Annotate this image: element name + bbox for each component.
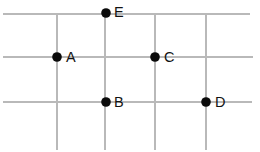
point-a-label: A	[66, 49, 76, 65]
diagram-canvas: EACBD	[0, 0, 260, 152]
vertical-grid-lines	[57, 14, 206, 150]
point-a-dot	[52, 52, 62, 62]
point-b-label: B	[114, 94, 124, 110]
point-c-label: C	[164, 49, 174, 65]
point-d-label: D	[215, 94, 225, 110]
point-c-dot	[150, 52, 160, 62]
point-e-dot	[101, 8, 111, 18]
point-d-dot	[201, 97, 211, 107]
point-e-label: E	[114, 4, 124, 20]
point-grid-figure: EACBD	[0, 0, 260, 152]
horizontal-grid-lines	[3, 14, 253, 102]
point-b-dot	[101, 97, 111, 107]
